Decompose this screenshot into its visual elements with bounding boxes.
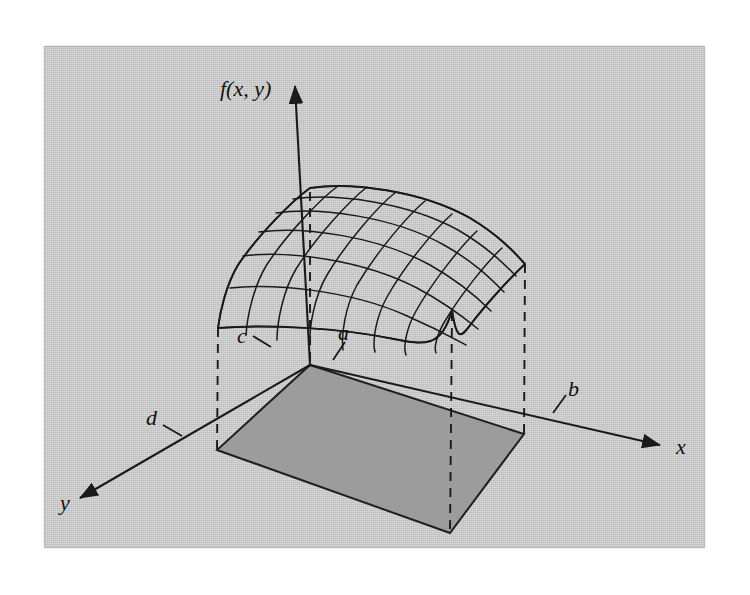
figure-page: f(x, y) x y a b c d [0,0,750,595]
tick-label-c: c [237,325,247,347]
z-axis-label: f(x, y) [220,78,271,100]
y-axis-label: y [60,492,70,514]
figure-panel-background [44,46,705,548]
x-axis-label: x [676,436,686,458]
tick-label-b: b [568,378,579,400]
tick-label-d: d [146,407,157,429]
tick-label-a: a [338,322,349,344]
